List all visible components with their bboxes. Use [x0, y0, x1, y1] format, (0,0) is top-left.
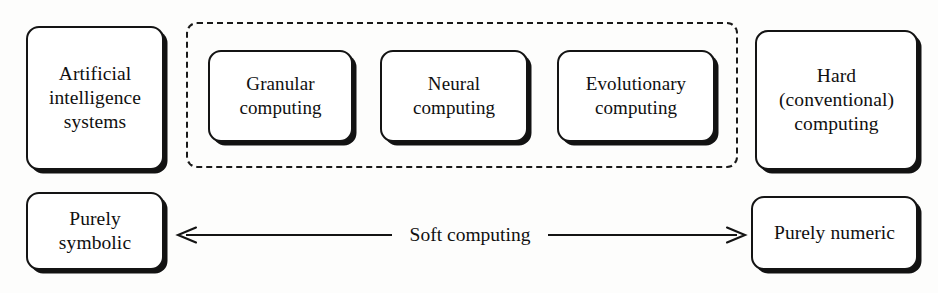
soft-computing-axis-arrow	[0, 0, 938, 293]
soft-computing-diagram: Artificial intelligence systems Granular…	[0, 0, 938, 293]
axis-label-soft-computing: Soft computing	[403, 224, 538, 246]
